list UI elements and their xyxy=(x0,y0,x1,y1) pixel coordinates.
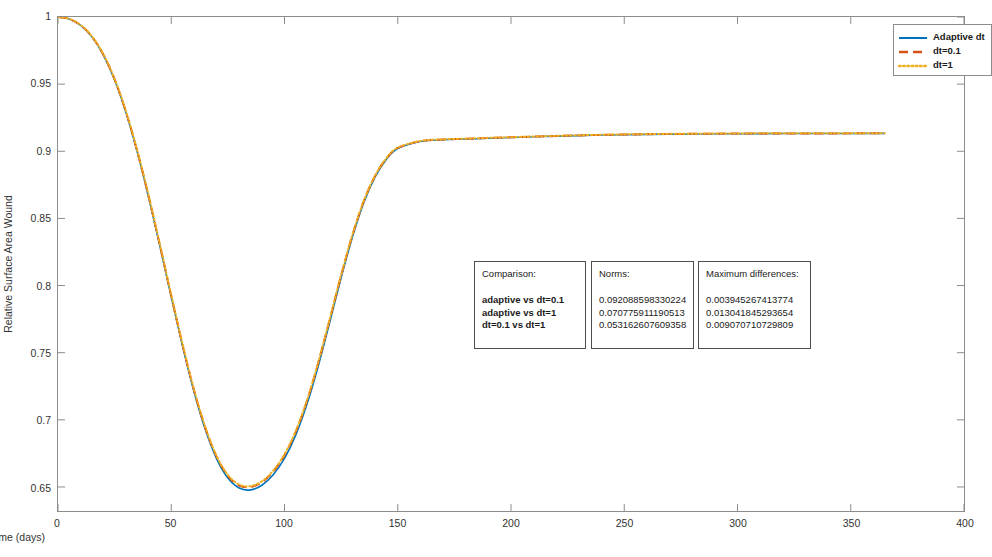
annotation-box-comparison: Comparison: adaptive vs dt=0.1 adaptive … xyxy=(474,261,586,349)
legend-item[interactable]: dt=1 xyxy=(898,57,985,71)
legend-swatch-icon xyxy=(898,30,928,42)
y-tick-label: 0.75 xyxy=(31,347,51,359)
series-line-dt-1 xyxy=(58,17,885,486)
annotation-row: 0.009070710729809 xyxy=(706,319,803,332)
x-axis-title-text: Time (days) xyxy=(0,531,45,543)
annotation-row: 0.092088598330224 xyxy=(599,294,686,307)
x-tick-label: 250 xyxy=(616,517,634,529)
legend-label: dt=0.1 xyxy=(933,45,961,56)
y-tick-label: 0.95 xyxy=(31,77,51,89)
legend-label: dt=1 xyxy=(933,59,953,70)
y-tick-label: 0.8 xyxy=(36,280,51,292)
x-tick-label: 400 xyxy=(956,517,974,529)
x-tick-label: 350 xyxy=(843,517,861,529)
y-tick-label: 0.85 xyxy=(31,212,51,224)
y-tick-label: 0.7 xyxy=(36,414,51,426)
data-series-group xyxy=(58,17,885,490)
y-tick-marks xyxy=(58,17,964,487)
annotation-row: dt=0.1 vs dt=1 xyxy=(482,319,578,332)
legend-item[interactable]: Adaptive dt xyxy=(898,29,985,43)
y-tick-label: 0.9 xyxy=(36,145,51,157)
y-tick-label: 1 xyxy=(45,10,51,22)
x-axis-title: Time (days) xyxy=(0,531,987,543)
annotation-box-norms: Norms: 0.092088598330224 0.0707759111905… xyxy=(591,261,694,349)
chart-legend[interactable]: Adaptive dtdt=0.1dt=1 xyxy=(893,24,992,76)
annotation-row: 0.013041845293654 xyxy=(706,307,803,320)
x-tick-label: 300 xyxy=(729,517,747,529)
x-tick-label: 0 xyxy=(54,517,60,529)
annotation-header-comparison: Comparison: xyxy=(482,268,578,279)
annotation-box-maximum-differences: Maximum differences: 0.003945267413774 0… xyxy=(698,261,811,349)
series-line-dt-0-1 xyxy=(58,17,885,487)
x-tick-label: 150 xyxy=(389,517,407,529)
legend-item[interactable]: dt=0.1 xyxy=(898,43,985,57)
annotation-row: adaptive vs dt=1 xyxy=(482,307,578,320)
x-tick-label: 200 xyxy=(502,517,520,529)
annotation-row: 0.070775911190513 xyxy=(599,307,686,320)
annotation-row: 0.053162607609358 xyxy=(599,319,686,332)
x-tick-label: 50 xyxy=(165,517,177,529)
legend-label: Adaptive dt xyxy=(933,31,985,42)
annotation-header-maximum-differences: Maximum differences: xyxy=(706,268,803,279)
x-tick-label: 100 xyxy=(275,517,293,529)
series-line-adaptive-dt xyxy=(58,17,885,490)
annotation-header-norms: Norms: xyxy=(599,268,686,279)
legend-swatch-icon xyxy=(898,58,928,70)
y-tick-label: 0.65 xyxy=(31,482,51,494)
legend-swatch-icon xyxy=(898,44,928,56)
annotation-row: 0.003945267413774 xyxy=(706,294,803,307)
annotation-row: adaptive vs dt=0.1 xyxy=(482,294,578,307)
y-axis-title: Relative Surface Area Wound xyxy=(2,195,14,333)
